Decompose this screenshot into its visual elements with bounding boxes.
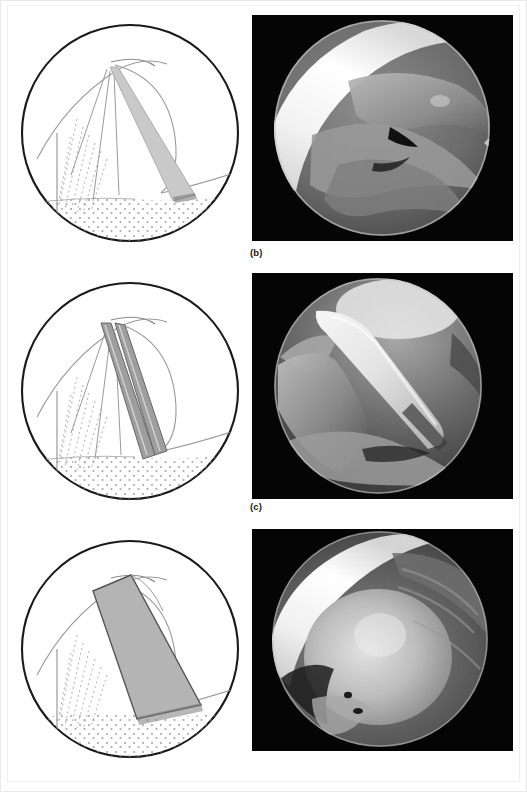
panel-caption-b: (b) xyxy=(250,247,263,258)
arthroscopy-photo-d xyxy=(252,529,513,751)
panel-caption-c: (c) xyxy=(250,501,262,512)
schematic-b xyxy=(15,9,245,257)
panel-row-b: (b) xyxy=(1,5,527,263)
arthroscopy-photo-c xyxy=(252,273,513,499)
schematic-d xyxy=(15,525,245,773)
panel-row-d: (d) xyxy=(1,521,527,779)
schematic-c xyxy=(15,267,245,515)
arthroscopy-photo-b xyxy=(252,15,513,241)
panel-row-c: (c) xyxy=(1,263,527,521)
figure-page: (b) xyxy=(0,0,527,792)
